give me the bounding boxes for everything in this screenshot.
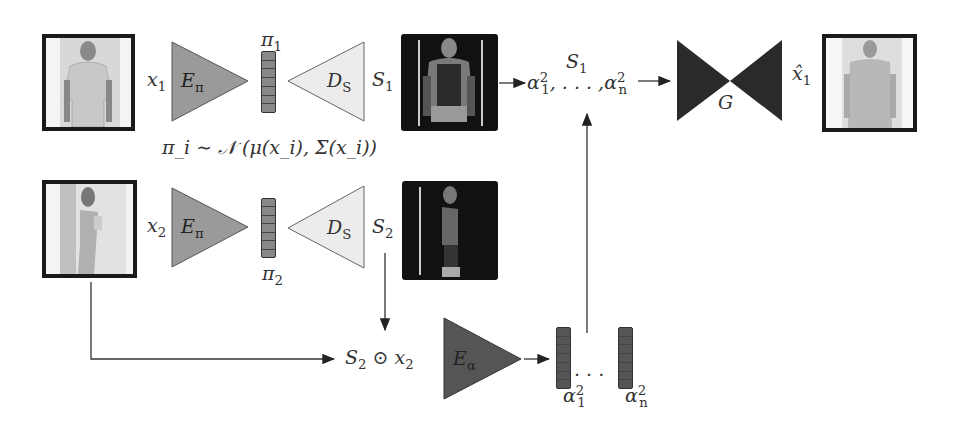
- appearance-vector-alphan: [618, 327, 633, 389]
- label-encoder-pi-2: Eπ: [181, 215, 204, 241]
- label-s2: S2: [372, 215, 394, 241]
- segmentation-side-icon: [402, 181, 498, 280]
- label-pi2: π2: [262, 262, 283, 288]
- appearance-ellipsis: · · ·: [574, 363, 604, 385]
- label-generator: G: [718, 91, 733, 113]
- label-decoder-s-1: DS: [327, 69, 351, 95]
- input-image-x2: [42, 180, 137, 278]
- label-gen-input-alphas: α21, . . . ,α2n: [527, 70, 627, 97]
- label-decoder-s-2: DS: [327, 216, 351, 242]
- output-image-x1hat: [822, 34, 917, 132]
- segmentation-image-s2: [402, 181, 498, 280]
- label-encoder-alpha: Eα: [453, 347, 476, 373]
- label-alphan: α2n: [625, 383, 648, 410]
- label-x1: x1: [147, 68, 166, 94]
- label-masked-input: S2 ⊙ x2: [345, 346, 414, 372]
- arrow-x2-to-mask: [91, 282, 334, 359]
- label-pi1: π1: [261, 28, 282, 54]
- input-image-x1: [42, 34, 135, 131]
- distribution-formula: π_i ∼ 𝒩 (μ(x_i), Σ(x_i)): [162, 136, 377, 159]
- label-output-x1hat: x̂1: [792, 62, 811, 88]
- label-s1: S1: [372, 68, 394, 94]
- decoder-s-2-shape: [288, 186, 364, 268]
- segmentation-front-icon: [401, 34, 498, 131]
- label-x2: x2: [147, 214, 166, 240]
- decoder-s-1-shape: [288, 42, 364, 121]
- segmentation-image-s1: [401, 34, 498, 131]
- label-alpha1: α21: [563, 383, 586, 410]
- latent-vector-pi1: [261, 51, 276, 113]
- appearance-vector-alpha1: [556, 327, 571, 389]
- person-front-icon: [46, 38, 131, 127]
- generator-right-shape: [730, 40, 782, 121]
- person-front-generated-icon: [826, 38, 913, 128]
- label-encoder-pi-1: Eπ: [181, 69, 204, 95]
- person-side-icon: [46, 184, 133, 274]
- latent-vector-pi2: [261, 198, 276, 258]
